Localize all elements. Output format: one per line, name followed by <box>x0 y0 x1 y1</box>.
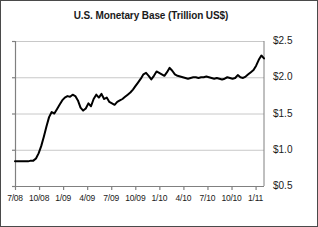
gridlines <box>15 42 264 151</box>
data-series-line <box>15 56 264 162</box>
y-tick-label-2: $1.5 <box>273 108 292 119</box>
y-tick-label-0: $2.5 <box>273 35 292 46</box>
y-tick-label-1: $2.0 <box>273 71 292 82</box>
y-axis-ticks <box>12 42 15 187</box>
y-tick-label-4: $0.5 <box>273 180 292 191</box>
y-tick-label-3: $1.0 <box>273 144 292 155</box>
x-tick-label-10: 1/11 <box>240 193 272 203</box>
chart-figure: U.S. Monetary Base (Trillion US$) $2.5 $… <box>0 0 318 227</box>
